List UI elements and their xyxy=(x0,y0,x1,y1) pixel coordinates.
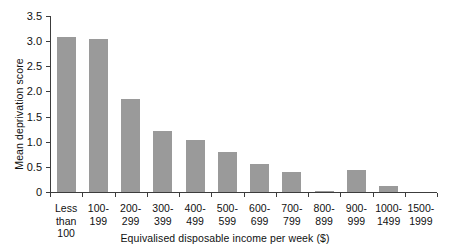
x-tick-mark xyxy=(340,193,341,197)
x-tick-mark xyxy=(50,193,51,197)
bar xyxy=(379,186,398,192)
bar xyxy=(153,131,172,192)
y-tick-label: 0.5 xyxy=(27,161,42,173)
x-tick-mark xyxy=(373,193,374,197)
x-tick-mark xyxy=(308,193,309,197)
y-tick-mark xyxy=(46,142,50,143)
y-tick-label: 3.0 xyxy=(27,35,42,47)
x-axis-title: Equivalised disposable income per week (… xyxy=(0,232,450,244)
y-tick-mark xyxy=(46,117,50,118)
y-tick-mark xyxy=(46,167,50,168)
x-tick-mark xyxy=(244,193,245,197)
bar xyxy=(218,152,237,192)
x-tick-label: 500- 599 xyxy=(211,202,243,227)
y-axis-title: Mean deprivation score xyxy=(13,29,25,199)
x-tick-label: 800- 899 xyxy=(308,202,340,227)
bar xyxy=(282,172,301,192)
y-tick-mark xyxy=(46,91,50,92)
y-tick-mark xyxy=(46,41,50,42)
x-tick-label: 1500- 1999 xyxy=(405,202,437,227)
bar xyxy=(121,99,140,192)
plot-area: 00.51.01.52.02.53.03.5 Less than 100100-… xyxy=(50,16,437,192)
y-tick-label: 0 xyxy=(36,186,42,198)
x-tick-label: 600- 699 xyxy=(244,202,276,227)
x-tick-label: 200- 299 xyxy=(115,202,147,227)
bar xyxy=(347,170,366,192)
x-tick-mark xyxy=(211,193,212,197)
y-tick-label: 1.0 xyxy=(27,136,42,148)
bar xyxy=(89,39,108,192)
y-tick-label: 2.0 xyxy=(27,85,42,97)
x-tick-label: 700- 799 xyxy=(276,202,308,227)
bar xyxy=(315,191,334,193)
bar xyxy=(57,37,76,192)
y-tick-label: 2.5 xyxy=(27,60,42,72)
x-tick-mark xyxy=(82,193,83,197)
x-tick-label: 900- 999 xyxy=(340,202,372,227)
x-tick-label: 100- 199 xyxy=(82,202,114,227)
x-tick-mark xyxy=(115,193,116,197)
x-tick-mark xyxy=(405,193,406,197)
x-tick-label: 400- 499 xyxy=(179,202,211,227)
x-tick-mark xyxy=(276,193,277,197)
bar xyxy=(250,164,269,192)
x-tick-mark xyxy=(437,193,438,197)
x-tick-mark xyxy=(179,193,180,197)
bar xyxy=(186,140,205,192)
y-tick-mark xyxy=(46,66,50,67)
y-tick-label: 3.5 xyxy=(27,10,42,22)
bar-chart-figure: Mean deprivation score 00.51.01.52.02.53… xyxy=(0,0,450,252)
x-tick-mark xyxy=(147,193,148,197)
y-tick-label: 1.5 xyxy=(27,111,42,123)
y-tick-mark xyxy=(46,16,50,17)
y-axis-line xyxy=(50,16,51,192)
x-tick-label: 300- 399 xyxy=(147,202,179,227)
x-tick-label: 1000- 1499 xyxy=(373,202,405,227)
